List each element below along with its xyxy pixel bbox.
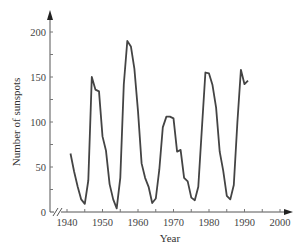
series-line-sunspots	[71, 41, 249, 208]
x-tick-label: 1960	[128, 217, 149, 228]
y-axis-title: Number of sunspots	[10, 78, 22, 167]
series-group	[71, 41, 249, 208]
y-tick-label: 0	[41, 207, 46, 218]
x-tick-label: 2000	[270, 217, 291, 228]
y-tick-label: 100	[30, 117, 46, 128]
x-axis-title: Year	[160, 232, 181, 244]
axis-break-icon	[53, 208, 62, 216]
x-axis: 1940195019601970198019902000	[50, 208, 293, 228]
x-tick-label: 1950	[92, 217, 113, 228]
x-axis-arrow-icon	[284, 209, 293, 215]
y-tick-label: 150	[30, 72, 46, 83]
x-tick-label: 1940	[57, 217, 78, 228]
y-tick-label: 200	[30, 27, 46, 38]
sunspot-chart: 050100150200 194019501960197019801990200…	[0, 0, 306, 250]
x-tick-label: 1970	[163, 217, 184, 228]
x-tick-label: 1980	[199, 217, 220, 228]
y-axis-arrow-icon	[47, 10, 53, 20]
x-tick-label: 1990	[234, 217, 255, 228]
y-axis: 050100150200	[30, 10, 53, 218]
y-tick-label: 50	[36, 162, 47, 173]
